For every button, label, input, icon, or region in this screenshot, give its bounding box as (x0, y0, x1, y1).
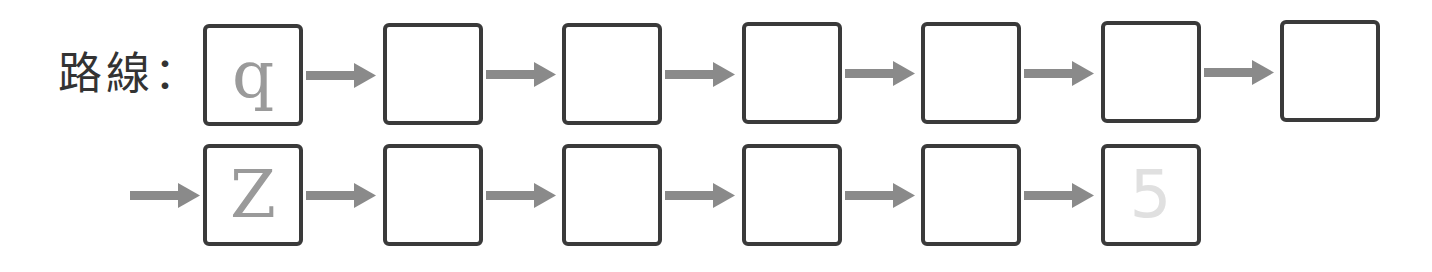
route-label: 路線： (58, 38, 202, 102)
route-box-r2-c1: Z (203, 144, 303, 246)
arrow-icon (1204, 57, 1274, 87)
route-box-r2-c5[interactable] (921, 144, 1021, 246)
route-box-r2-c6: 5 (1101, 144, 1201, 246)
arrow-icon (845, 180, 915, 210)
arrow-icon (486, 180, 556, 210)
box-value: 5 (1130, 162, 1172, 228)
arrow-icon (130, 180, 200, 210)
route-box-r1-c2[interactable] (383, 23, 483, 125)
route-box-r1-c4[interactable] (742, 22, 842, 124)
route-box-r1-c1: q (203, 24, 303, 126)
arrow-icon (665, 180, 735, 210)
route-box-r1-c3[interactable] (562, 23, 662, 125)
box-value: q (232, 42, 274, 108)
route-box-r2-c4[interactable] (742, 144, 842, 246)
arrow-icon (306, 60, 376, 90)
box-value: Z (230, 162, 276, 228)
arrow-icon (665, 59, 735, 89)
route-box-r2-c3[interactable] (562, 144, 662, 246)
route-box-r2-c2[interactable] (383, 144, 483, 246)
arrow-icon (845, 58, 915, 88)
arrow-icon (486, 59, 556, 89)
route-box-r1-c6[interactable] (1101, 21, 1201, 123)
arrow-icon (1024, 180, 1094, 210)
arrow-icon (306, 180, 376, 210)
route-box-r1-c5[interactable] (921, 22, 1021, 124)
route-box-r1-c7[interactable] (1280, 20, 1380, 122)
arrow-icon (1024, 58, 1094, 88)
